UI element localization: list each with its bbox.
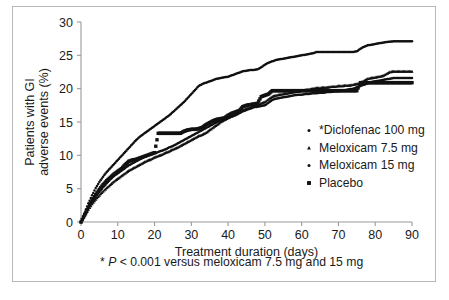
y-tick-label: 0 <box>66 216 73 230</box>
marker-square <box>155 138 158 141</box>
marker-square <box>154 145 157 148</box>
footnote-rest: < 0.001 versus meloxicam 7.5 mg and 15 m… <box>116 255 363 269</box>
marker-dot <box>411 77 414 80</box>
x-tick-label: 60 <box>295 228 309 242</box>
chart-canvas: 0102030405060708090051015202530Treatment… <box>0 0 449 300</box>
x-tick-label: 90 <box>405 228 419 242</box>
y-tick-label: 5 <box>66 182 73 196</box>
x-tick-label: 40 <box>221 228 235 242</box>
marker-dot <box>308 164 311 167</box>
y-tick-label: 25 <box>59 49 73 63</box>
legend-item-diclofenac[interactable] <box>308 129 311 132</box>
footnote: * P < 0.001 versus meloxicam 7.5 mg and … <box>100 255 363 269</box>
legend-item-meloxicam15[interactable] <box>308 164 311 167</box>
x-tick-label: 50 <box>258 228 272 242</box>
x-tick-label: 30 <box>184 228 198 242</box>
legend-label-meloxicam15: Meloxicam 15 mg <box>319 158 415 172</box>
legend-label-diclofenac: *Diclofenac 100 mg <box>319 123 425 137</box>
y-tick-label: 10 <box>59 149 73 163</box>
x-tick-label: 70 <box>331 228 345 242</box>
marker-triangle <box>307 146 311 150</box>
footnote-star: * <box>100 255 108 269</box>
x-tick-label: 10 <box>111 228 125 242</box>
marker-square <box>153 151 156 154</box>
x-tick-label: 0 <box>78 228 85 242</box>
x-tick-label: 80 <box>368 228 382 242</box>
legend-item-meloxicam75[interactable] <box>307 146 311 150</box>
y-axis-title-line1: Patients with GI <box>23 78 37 166</box>
marker-dot <box>411 40 414 43</box>
marker-dot <box>308 129 311 132</box>
marker-square <box>307 181 311 185</box>
legend-label-placebo: Placebo <box>319 176 363 190</box>
legend-item-placebo[interactable] <box>307 181 311 185</box>
x-tick-label: 20 <box>148 228 162 242</box>
figure-container: 0102030405060708090051015202530Treatment… <box>0 0 449 300</box>
marker-square <box>410 81 413 84</box>
legend-label-meloxicam75: Meloxicam 7.5 mg <box>319 141 418 155</box>
y-tick-label: 30 <box>59 16 73 30</box>
y-axis-title-line2: adverse events (%) <box>37 68 51 176</box>
y-tick-label: 20 <box>59 82 73 96</box>
y-tick-label: 15 <box>59 116 73 130</box>
